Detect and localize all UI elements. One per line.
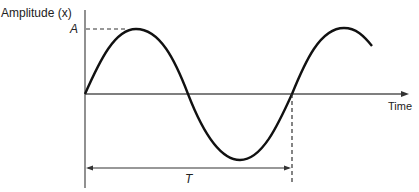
amplitude-label: A — [69, 22, 78, 36]
time-label: Time — [388, 100, 412, 112]
x-axis-arrowhead — [401, 91, 409, 97]
period-label: T — [185, 172, 194, 186]
period-arrowhead-right — [284, 166, 291, 171]
sine-wave-diagram: Amplitude (x) A Time T — [0, 0, 419, 192]
period-arrowhead-left — [86, 166, 93, 171]
y-axis-label: Amplitude (x) — [1, 6, 72, 20]
